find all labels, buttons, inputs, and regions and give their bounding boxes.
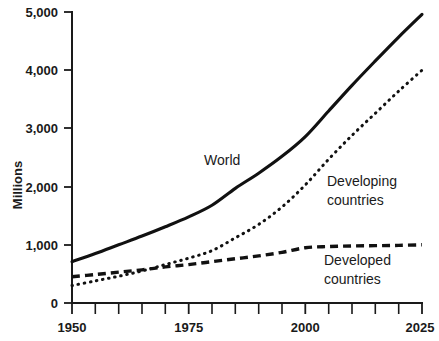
- x-axis-ticks: [72, 303, 422, 314]
- y-tick-label-3000: 3,000: [25, 121, 58, 136]
- series-line-world: [72, 14, 422, 261]
- y-axis-ticks: [64, 12, 72, 303]
- x-tick-label-2000: 2000: [291, 320, 320, 335]
- y-tick-label-5000: 5,000: [25, 5, 58, 20]
- population-projection-chart: 5,000 4,000 3,000 2,000 1,000 0 Millions: [0, 0, 439, 341]
- series-annotation-developed-line1: Developed: [324, 252, 391, 268]
- x-tick-label-1950: 1950: [58, 320, 87, 335]
- series-annotation-developing-line2: countries: [327, 192, 384, 208]
- x-tick-label-2025: 2025: [406, 320, 435, 335]
- y-tick-label-4000: 4,000: [25, 63, 58, 78]
- series-annotation-developed-line2: countries: [324, 271, 381, 287]
- x-tick-label-1975: 1975: [174, 320, 203, 335]
- y-axis-title: Millions: [10, 161, 25, 209]
- y-tick-label-2000: 2,000: [25, 180, 58, 195]
- series-annotation-world: World: [204, 152, 240, 168]
- series-annotation-developing-line1: Developing: [327, 173, 397, 189]
- chart-canvas: 5,000 4,000 3,000 2,000 1,000 0 Millions: [0, 0, 439, 341]
- y-tick-label-1000: 1,000: [25, 238, 58, 253]
- y-tick-label-0: 0: [51, 296, 58, 311]
